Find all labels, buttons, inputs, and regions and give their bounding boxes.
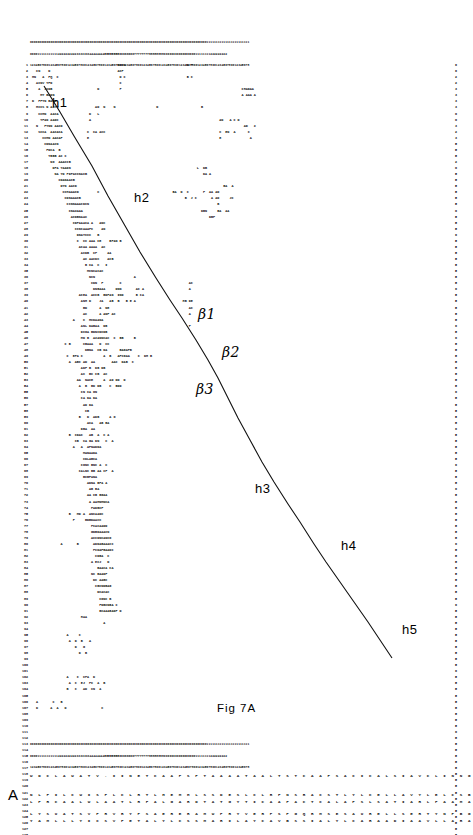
ruler-top-tens: 0000111111111112222222222333333344444444… [30,53,249,57]
ss-label-h2: h2 [134,190,149,205]
ruler-top-hundreds: 0000000000000000000000000000000000000000… [30,41,249,45]
ss-label-b3: β3 [196,381,214,397]
sequence-line: W D C L A W A T V . I I N E T C A A P S … [30,773,473,779]
sequence-block-lower: L P R C A A L W L A A T L R F A L G A R … [30,786,473,835]
ss-label-b1: β1 [198,306,216,322]
ss-label-b2: β2 [222,344,240,360]
ss-label-h4: h4 [341,538,356,553]
figure-canvas: 0000000000000000000000000000000000000000… [0,0,473,835]
ss-label-h5: h5 [402,622,417,637]
ss-label-h1: h1 [52,95,67,110]
sequence-line: L P R C A A L W L A A T L R F A L G A R … [30,799,473,805]
dot-matrix-field: NCCN A F CN D ACP HN A [30,62,455,712]
ruler-bottom-hundreds: 0000000000000000000000000000000000000000… [30,743,249,747]
panel-label-a: A [8,786,18,803]
figure-caption: Fig 7A [0,702,473,714]
sequence-line: Y A M L L L Y I C S V F E T A L Y L C S … [30,818,473,824]
left-row-number-gutter: 1234567891011121314151617181920212223242… [12,62,28,835]
ruler-bottom-tens: 0000111111111112222222222333333344444444… [30,755,249,759]
right-row-number-gutter: 6622333300323555205555550555655555555655… [455,62,469,835]
ss-label-h3: h3 [255,481,270,496]
